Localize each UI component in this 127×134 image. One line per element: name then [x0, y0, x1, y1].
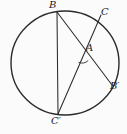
label-B: B [49, 0, 56, 10]
geometry-figure: B C A B′ C′ [0, 0, 127, 134]
label-B-prime: B′ [110, 81, 120, 91]
chord-C-Cprime [58, 15, 101, 114]
chord-B-Cprime [57, 12, 58, 114]
circle-outline [11, 11, 119, 115]
angle-arc-at-A [78, 60, 88, 63]
label-C: C [101, 7, 109, 17]
label-C-prime: C′ [51, 116, 61, 126]
label-A: A [86, 43, 93, 53]
circle-diagram-canvas [0, 0, 127, 134]
chord-B-Bprime [57, 12, 112, 85]
